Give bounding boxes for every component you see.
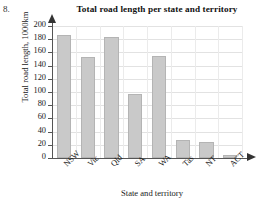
y-tick-label: 60 [0,113,46,121]
y-tick-mark [48,132,53,133]
bar-sa [128,94,142,158]
y-tick-label: 180 [0,34,46,42]
y-tick-label: 120 [0,74,46,82]
gridline-vertical [76,26,77,158]
bar-vic [81,57,95,158]
bar-wa [152,56,166,158]
x-axis-arrow-icon [247,153,256,161]
y-tick-mark [48,105,53,106]
gridline-vertical [147,26,148,158]
y-tick-mark [48,92,53,93]
chart-title: Total road length per state and territor… [48,4,266,14]
y-tick-label: 140 [0,61,46,69]
y-tick-mark [48,79,53,80]
y-tick-mark [48,145,53,146]
question-number: 8. [3,4,10,14]
y-tick-label: 40 [0,127,46,135]
y-tick-mark [48,118,53,119]
gridline-vertical [242,26,243,158]
y-axis-arrow-icon [48,14,56,23]
y-tick-mark [48,52,53,53]
y-tick-label: 100 [0,87,46,95]
bar-qld [104,37,118,158]
y-axis-line [52,22,53,158]
y-tick-mark [48,66,53,67]
gridline-vertical [100,26,101,158]
y-tick-mark [48,26,53,27]
y-tick-mark [48,158,53,159]
y-tick-label: 20 [0,140,46,148]
chart-figure: 8. Total road length per state and terri… [0,0,268,203]
x-axis-label: State and territory [52,188,252,198]
plot-area [52,26,242,158]
y-tick-mark [48,39,53,40]
gridline-vertical [218,26,219,158]
gridline-vertical [123,26,124,158]
gridline-vertical [195,26,196,158]
y-tick-label: 80 [0,100,46,108]
x-axis-line [52,158,248,159]
y-tick-label: 200 [0,21,46,29]
bar-nsw [57,35,71,158]
y-tick-label: 0 [0,153,46,161]
gridline-vertical [171,26,172,158]
y-tick-label: 160 [0,47,46,55]
